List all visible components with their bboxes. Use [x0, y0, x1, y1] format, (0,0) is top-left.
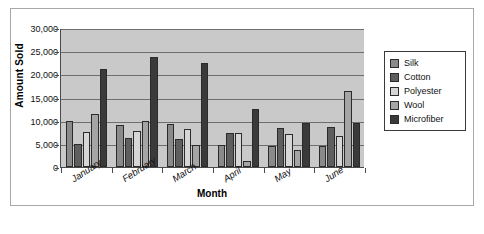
bar-microfiber-january [100, 69, 108, 167]
y-axis-tick-mark [55, 29, 59, 30]
bar-microfiber-june [353, 123, 361, 167]
bar-microfiber-april [252, 109, 260, 167]
bar-cotton-february [125, 138, 133, 167]
chart-legend: SilkCottonPolyesterWoolMicrofiber [384, 51, 466, 131]
bar-silk-january [66, 121, 74, 167]
x-axis-tick-mark [314, 168, 315, 173]
legend-swatch-silk [390, 59, 399, 68]
legend-swatch-cotton [390, 73, 399, 82]
bar-group [162, 29, 213, 167]
legend-swatch-wool [390, 101, 399, 110]
bar-microfiber-may [302, 123, 310, 167]
y-axis-tick-mark [55, 52, 59, 53]
y-axis-tick-mark [55, 168, 59, 169]
y-axis-tick-mark [55, 122, 59, 123]
y-axis-tick-mark [55, 99, 59, 100]
legend-label: Polyester [404, 86, 442, 96]
bar-polyester-june [336, 136, 344, 168]
bar-group [112, 29, 163, 167]
plot-area: JanuaryFebruaryMarchAprilMayJune [60, 29, 364, 168]
bar-cotton-january [74, 144, 82, 167]
legend-item-microfiber: Microfiber [390, 112, 461, 126]
bar-polyester-april [235, 133, 243, 167]
legend-label: Microfiber [404, 114, 444, 124]
bar-silk-march [167, 124, 175, 167]
bar-wool-april [243, 161, 251, 167]
legend-item-polyester: Polyester [390, 84, 461, 98]
bar-silk-february [116, 125, 124, 167]
bar-wool-may [294, 150, 302, 167]
bar-group [61, 29, 112, 167]
y-axis-tick-label: 30,000 [12, 24, 58, 34]
legend-swatch-polyester [390, 87, 399, 96]
x-axis-tick-mark [61, 168, 62, 173]
y-axis-tick-label: 15,000 [12, 94, 58, 104]
legend-item-wool: Wool [390, 98, 461, 112]
legend-swatch-microfiber [390, 115, 399, 124]
bar-microfiber-february [150, 57, 158, 167]
y-axis-tick-label: 5,000 [12, 140, 58, 150]
bar-microfiber-march [201, 63, 209, 167]
x-axis-tick-mark [264, 168, 265, 173]
y-axis-tick-label: 20,000 [12, 70, 58, 80]
bar-silk-april [218, 145, 226, 167]
bar-group [264, 29, 315, 167]
y-axis-tick-mark [55, 145, 59, 146]
y-axis-tick-label: 10,000 [12, 117, 58, 127]
bar-group [213, 29, 264, 167]
bar-silk-may [268, 146, 276, 167]
legend-label: Wool [404, 100, 424, 110]
bar-cotton-march [175, 139, 183, 167]
bar-wool-june [344, 91, 352, 167]
bar-cotton-may [277, 128, 285, 167]
legend-label: Silk [404, 58, 419, 68]
y-axis-tick-labels: 05,00010,00015,00020,00025,00030,000 [8, 29, 58, 168]
y-axis-tick-label: 25,000 [12, 47, 58, 57]
legend-label: Cotton [404, 72, 431, 82]
legend-item-cotton: Cotton [390, 70, 461, 84]
x-axis-tick-mark [365, 168, 366, 173]
x-axis-tick-mark [213, 168, 214, 173]
y-axis-tick-label: 0 [12, 163, 58, 173]
legend-item-silk: Silk [390, 56, 461, 70]
bar-cotton-june [327, 127, 335, 167]
x-axis-title: Month [60, 188, 364, 199]
x-axis-tick-mark [162, 168, 163, 173]
y-axis-tick-mark [55, 75, 59, 76]
bar-silk-june [319, 146, 327, 167]
bar-group [314, 29, 365, 167]
bar-polyester-may [285, 134, 293, 167]
x-axis-tick-mark [112, 168, 113, 173]
figure-container: Amount Sold 05,00010,00015,00020,00025,0… [0, 0, 484, 234]
bar-cotton-april [226, 133, 234, 167]
